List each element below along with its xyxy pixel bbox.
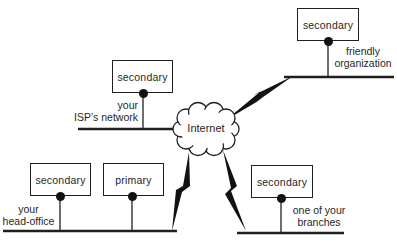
network-label-line2: ISP’s network <box>58 112 138 124</box>
connection-dot-headoffice-secondary <box>56 192 65 201</box>
connection-dot-branch-secondary <box>277 194 286 203</box>
server-label: primary <box>115 174 151 186</box>
network-label-isp: your ISP’s network <box>58 100 138 123</box>
internet-cloud-label: Internet <box>176 122 236 134</box>
dns-network-diagram: Internet secondary secondary secondary p… <box>0 0 397 241</box>
network-label-branch: one of your branches <box>283 205 355 228</box>
network-label-line2: organization <box>328 58 397 70</box>
server-label: secondary <box>35 174 85 186</box>
network-label-line1: one of your <box>283 205 355 217</box>
server-label: secondary <box>303 19 353 31</box>
connection-dot-friendly-secondary <box>324 37 333 46</box>
connection-dot-isp-secondary <box>139 89 148 98</box>
network-label-line1: friendly <box>328 46 397 58</box>
network-label-line2: head-office <box>0 216 57 228</box>
network-label-head-office: your head-office <box>0 204 57 227</box>
lightning-bolt-to-branch-icon <box>223 150 246 231</box>
lightning-bolt-to-friendly-icon <box>226 76 293 120</box>
lightning-bolt-to-head-office-icon <box>172 152 190 231</box>
network-label-line2: branches <box>283 217 355 229</box>
connection-dot-headoffice-primary <box>128 192 137 201</box>
server-label: secondary <box>257 176 307 188</box>
network-label-line1: your <box>0 204 57 216</box>
server-box-headoffice-primary: primary <box>103 163 164 196</box>
network-label-line1: your <box>58 100 138 112</box>
network-label-friendly-organization: friendly organization <box>328 46 397 69</box>
server-label: secondary <box>117 71 167 83</box>
